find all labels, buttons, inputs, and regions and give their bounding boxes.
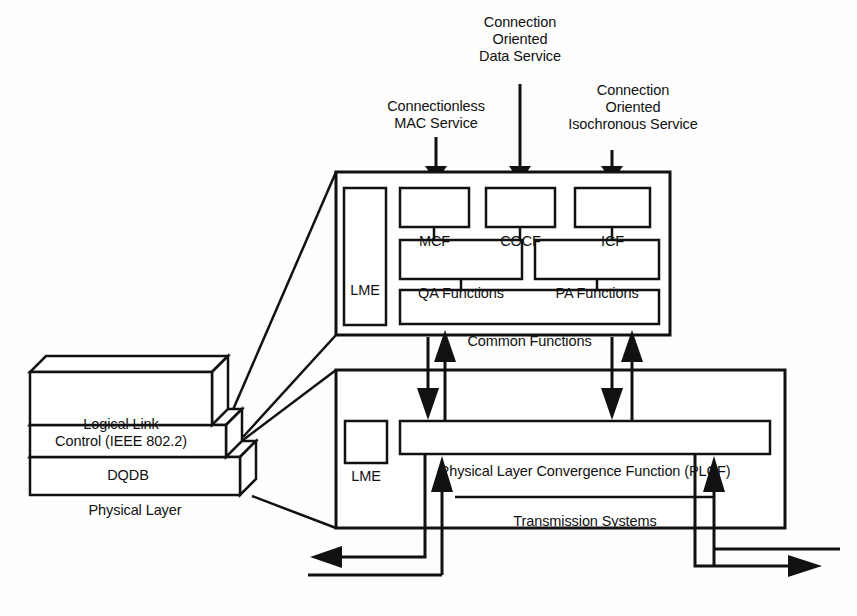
service-label-connection-oriented-isochronous: Connection Oriented Isochronous Service <box>538 82 728 133</box>
pa-functions-label: PA Functions <box>535 240 659 279</box>
lower-lme-label: LME <box>345 421 387 463</box>
qa-functions-label: QA Functions <box>400 240 522 279</box>
transmission-systems-text: Transmission Systems <box>455 511 715 531</box>
cocf-label: COCF <box>486 188 555 227</box>
service-label-connectionless-mac: Connectionless MAC Service <box>368 98 504 132</box>
transmission-systems-label: Transmission Systems <box>455 477 715 497</box>
common-functions-text: Common Functions <box>400 324 659 358</box>
service-label-connection-oriented-data: Connection Oriented Data Service <box>458 14 582 65</box>
upper-lme-text: LME <box>344 222 386 359</box>
stack-physical-layer-text: Physical Layer <box>30 491 240 529</box>
mcf-label: MCF <box>400 188 469 227</box>
stack-label-physical-layer: Physical Layer <box>30 457 240 495</box>
plcf-label: Physical Layer Convergence Function (PLC… <box>400 421 770 454</box>
common-functions-label: Common Functions <box>400 290 659 324</box>
stack-label-logical-link-control: Logical Link Control (IEEE 802.2) <box>30 372 212 425</box>
lower-lme-text: LME <box>345 455 387 497</box>
service-arrow-connection-oriented-data <box>509 84 531 182</box>
stack-label-dqdb: DQDB <box>30 425 226 457</box>
dqdb-architecture-diagram: Connectionless MAC Service Connection Or… <box>0 0 857 616</box>
upper-lme-label: LME <box>344 188 386 325</box>
icf-label: ICF <box>575 188 650 227</box>
